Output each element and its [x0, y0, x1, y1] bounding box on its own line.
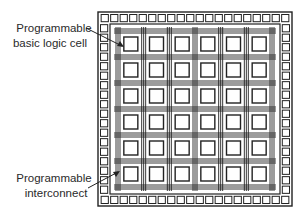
io-pad [282, 44, 289, 51]
interconnect-callout: Programmable interconnect [16, 171, 120, 199]
io-pad [101, 15, 108, 22]
logic-cell [252, 167, 266, 181]
io-pad [158, 196, 165, 203]
io-pad [196, 15, 203, 22]
logic-cell [175, 37, 189, 51]
io-pad [282, 110, 289, 117]
io-pad [187, 15, 194, 22]
io-pad [225, 15, 232, 22]
io-pad [282, 167, 289, 174]
io-pad [253, 15, 260, 22]
logic-cell-label-line2: basic logic cell [13, 37, 87, 49]
io-pad [101, 110, 108, 117]
logic-cell [150, 115, 164, 129]
io-pad [244, 196, 251, 203]
io-pad [101, 91, 108, 98]
io-pad [101, 139, 108, 146]
logic-cell-label-line1: Programmable [16, 22, 91, 34]
io-pad [149, 196, 156, 203]
io-pad [158, 15, 165, 22]
io-pad [234, 15, 241, 22]
logic-cell [124, 115, 138, 129]
logic-cell [201, 37, 215, 51]
io-pad [282, 186, 289, 193]
io-pad [130, 196, 137, 203]
logic-cell [227, 37, 241, 51]
logic-cell [252, 37, 266, 51]
io-pad [168, 15, 175, 22]
logic-cell [124, 167, 138, 181]
logic-cell [150, 141, 164, 155]
logic-cell [175, 167, 189, 181]
io-pad [282, 177, 289, 184]
io-pad [282, 25, 289, 32]
io-pad [215, 15, 222, 22]
io-pad [282, 72, 289, 79]
logic-cell [201, 63, 215, 77]
fpga-diagram: Programmable basic logic cell Programmab… [0, 0, 305, 216]
io-pad [253, 196, 260, 203]
io-pad [215, 196, 222, 203]
logic-cell [201, 89, 215, 103]
io-pad [101, 44, 108, 51]
logic-cell [252, 89, 266, 103]
io-pad [282, 53, 289, 60]
io-pad [101, 158, 108, 165]
logic-cell [252, 141, 266, 155]
logic-cell [252, 63, 266, 77]
io-pad [177, 15, 184, 22]
io-pad [101, 101, 108, 108]
io-pad [111, 15, 118, 22]
io-pad [282, 196, 289, 203]
io-pad [282, 15, 289, 22]
io-pad [282, 82, 289, 89]
logic-cell [124, 141, 138, 155]
logic-cell [201, 167, 215, 181]
io-pad [101, 25, 108, 32]
io-pad [282, 139, 289, 146]
io-pad [206, 196, 213, 203]
io-pad [101, 167, 108, 174]
io-pad [225, 196, 232, 203]
io-pad [272, 15, 279, 22]
io-pad [282, 120, 289, 127]
io-pad [111, 196, 118, 203]
io-pad [139, 15, 146, 22]
io-pad [282, 129, 289, 136]
logic-cell [227, 89, 241, 103]
io-pad [101, 63, 108, 70]
io-pad [168, 196, 175, 203]
logic-cell [124, 89, 138, 103]
logic-cell [150, 89, 164, 103]
logic-cell [227, 115, 241, 129]
interconnect-label-line2: interconnect [25, 187, 88, 199]
io-pad [282, 101, 289, 108]
io-pad [120, 196, 127, 203]
io-pad [187, 196, 194, 203]
logic-cell [252, 115, 266, 129]
io-pad [101, 186, 108, 193]
io-pad [101, 129, 108, 136]
io-pad [139, 196, 146, 203]
interconnect-label-line1: Programmable [16, 172, 91, 184]
io-pad [101, 82, 108, 89]
io-pad [149, 15, 156, 22]
io-pad [177, 196, 184, 203]
io-pad [101, 72, 108, 79]
logic-cell [150, 167, 164, 181]
io-pad [120, 15, 127, 22]
io-pad [101, 53, 108, 60]
io-pad [282, 158, 289, 165]
logic-cell [175, 141, 189, 155]
logic-cell [150, 63, 164, 77]
io-pad [272, 196, 279, 203]
logic-cell [201, 141, 215, 155]
logic-cell [175, 115, 189, 129]
io-pad [130, 15, 137, 22]
io-pad [263, 196, 270, 203]
logic-cell [150, 37, 164, 51]
logic-cell [201, 115, 215, 129]
io-pad [101, 120, 108, 127]
io-pad [263, 15, 270, 22]
io-pad [282, 63, 289, 70]
